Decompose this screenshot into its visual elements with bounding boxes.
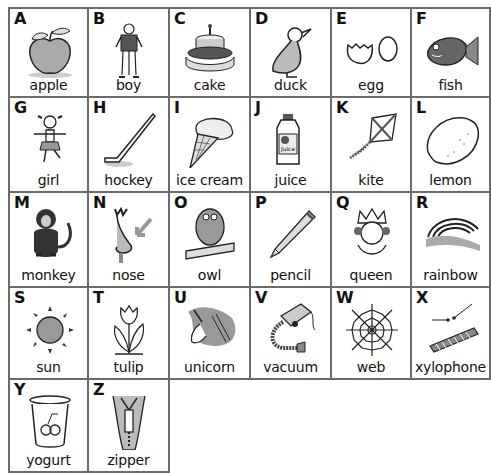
card-word: monkey: [10, 267, 87, 283]
card-word: nose: [89, 267, 168, 283]
card-g: G girl: [8, 98, 89, 193]
card-h: H hockey: [89, 98, 170, 193]
card-d: D duck: [251, 7, 332, 98]
card-word: sun: [10, 359, 87, 375]
card-word: lemon: [412, 172, 489, 188]
card-word: juice: [251, 172, 330, 188]
unicorn-icon: [182, 302, 238, 358]
duck-icon: [263, 23, 319, 79]
tulip-icon: [101, 302, 157, 358]
pencil-icon: [263, 207, 319, 263]
card-word: fish: [412, 77, 489, 93]
card-o: O owl: [170, 193, 251, 288]
owl-icon: [182, 207, 238, 263]
empty-cell: [332, 380, 412, 473]
egg-icon: [344, 23, 400, 79]
card-f: F fish: [412, 7, 491, 98]
card-word: boy: [89, 77, 168, 93]
card-w: W web: [332, 288, 412, 380]
fish-icon: [424, 23, 480, 79]
girl-icon: [22, 112, 78, 168]
card-b: B boy: [89, 7, 170, 98]
card-l: L lemon: [412, 98, 491, 193]
card-v: V vacuum: [251, 288, 332, 380]
empty-cell: [251, 380, 332, 473]
card-word: tulip: [89, 359, 168, 375]
card-word: hockey: [89, 172, 168, 188]
nose-icon: [101, 207, 157, 263]
card-word: cake: [170, 77, 249, 93]
web-icon: [344, 302, 400, 358]
card-j: J Juice juice: [251, 98, 332, 193]
card-word: vacuum: [251, 359, 330, 375]
card-word: owl: [170, 267, 249, 283]
card-r: R rainbow: [412, 193, 491, 288]
card-word: unicorn: [170, 359, 249, 375]
cake-icon: [182, 23, 238, 79]
card-u: U unicorn: [170, 288, 251, 380]
card-c: C cake: [170, 7, 251, 98]
card-word: ice cream: [170, 172, 249, 188]
svg-text:Juice: Juice: [280, 145, 296, 153]
card-letter: I: [174, 99, 180, 117]
card-p: P pencil: [251, 193, 332, 288]
card-n: N nose: [89, 193, 170, 288]
card-q: Q queen: [332, 193, 412, 288]
card-i: I ice cream: [170, 98, 251, 193]
card-x: X xylophone: [412, 288, 491, 380]
apple-icon: [22, 23, 78, 79]
boy-icon: [101, 23, 157, 79]
zipper-icon: [101, 394, 157, 450]
rainbow-icon: [424, 207, 480, 263]
card-y: Y yogurt: [8, 380, 89, 473]
lemon-icon: [424, 112, 480, 168]
card-word: egg: [332, 77, 410, 93]
card-word: pencil: [251, 267, 330, 283]
vacuum-icon: [263, 302, 319, 358]
card-letter: J: [255, 99, 261, 117]
kite-icon: [344, 112, 400, 168]
card-word: rainbow: [412, 267, 489, 283]
xylophone-icon: [424, 302, 480, 358]
empty-cell: [170, 380, 251, 473]
card-word: apple: [10, 77, 87, 93]
sun-icon: [22, 302, 78, 358]
card-word: girl: [10, 172, 87, 188]
juice-icon: Juice: [263, 112, 319, 168]
card-word: web: [332, 359, 410, 375]
card-word: zipper: [89, 452, 168, 468]
card-z: Z zipper: [89, 380, 170, 473]
card-word: duck: [251, 77, 330, 93]
queen-icon: [344, 207, 400, 263]
card-k: K kite: [332, 98, 412, 193]
card-t: T tulip: [89, 288, 170, 380]
card-word: kite: [332, 172, 410, 188]
card-m: M monkey: [8, 193, 89, 288]
alphabet-grid: A apple B boy C cake D duck E egg F fish…: [8, 7, 491, 473]
monkey-icon: [22, 207, 78, 263]
card-e: E egg: [332, 7, 412, 98]
yogurt-icon: [22, 394, 78, 450]
hockey-stick-icon: [101, 112, 157, 168]
card-word: xylophone: [412, 359, 489, 375]
card-s: S sun: [8, 288, 89, 380]
card-word: yogurt: [10, 452, 87, 468]
card-word: queen: [332, 267, 410, 283]
empty-cell: [412, 380, 491, 473]
ice-cream-icon: [182, 112, 238, 168]
card-a: A apple: [8, 7, 89, 98]
